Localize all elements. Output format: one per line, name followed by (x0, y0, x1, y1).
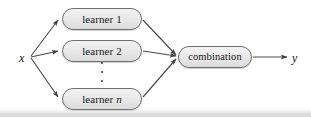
node-learner-1-label: learner 1 (82, 14, 122, 25)
edge-x-to-learner-n (31, 58, 58, 97)
node-learner-1: learner 1 (62, 8, 142, 30)
ellipsis-dot (101, 71, 103, 73)
node-combination-label: combination (188, 52, 242, 63)
input-variable-label: x (19, 52, 24, 64)
edge-x-to-learner-2 (31, 51, 58, 57)
scan-artifact-band (0, 109, 311, 117)
ellipsis-dot (101, 80, 103, 82)
node-combination: combination (178, 46, 252, 68)
edge-x-to-learner-1 (31, 20, 58, 56)
diagram-edges (0, 0, 311, 117)
edge-learner-n-to-combination (143, 59, 176, 97)
node-learner-n: learner n (62, 88, 142, 110)
node-learner-2-label: learner 2 (82, 46, 122, 57)
edge-learner-1-to-combination (143, 20, 176, 55)
node-learner-2: learner 2 (62, 40, 142, 62)
edge-learner-2-to-combination (143, 51, 176, 56)
vertical-ellipsis-icon (96, 62, 108, 82)
ellipsis-dot (101, 62, 103, 64)
node-learner-n-label: learner n (82, 94, 122, 105)
ensemble-diagram: learner 1 learner 2 learner n combinatio… (0, 0, 311, 117)
output-variable-label: y (292, 52, 297, 64)
